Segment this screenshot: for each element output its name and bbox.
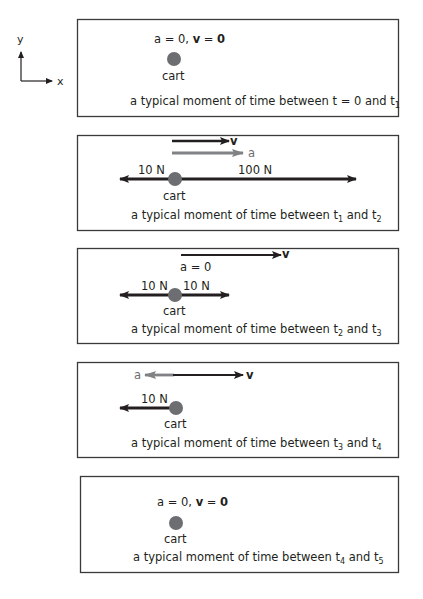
cart-label: cart [163,304,186,318]
force-left-label: 10 N [138,163,165,177]
cart-label: cart [164,532,187,546]
panel-caption: a typical moment of time between t3 and … [131,436,382,452]
coordinate-axes: y x [17,33,64,88]
velocity-label: v [246,368,254,382]
cart-label: cart [162,69,185,83]
panel-caption: a typical moment of time between t2 and … [131,322,382,338]
cart-icon [168,288,182,302]
cart-icon [168,172,182,186]
panel-3: v a = 0 10 N 10 N cart a typical moment … [78,247,399,344]
panel-5: a = 0, v = 0 cart a typical moment of ti… [81,477,399,573]
cart-icon [169,516,183,530]
force-right-label: 100 N [238,163,272,177]
state-label: a = 0, v = 0 [157,495,228,509]
motion-diagram: y x a = 0, v = 0 cart a typical moment o… [0,0,423,599]
panel-caption: a typical moment of time between t1 and … [131,208,382,224]
panel-1: a = 0, v = 0 cart a typical moment of ti… [78,20,400,117]
force-left-label: 10 N [141,392,168,406]
cart-label: cart [163,189,186,203]
panel-2: v a 10 N 100 N cart a typical moment of … [78,134,399,231]
acceleration-label: a [134,368,141,382]
x-axis-label: x [57,75,64,88]
cart-label: cart [164,417,187,431]
y-axis-label: y [17,33,24,46]
panel-caption: a typical moment of time between t4 and … [133,550,384,566]
state-label: a = 0, v = 0 [154,32,225,46]
velocity-label: v [230,134,238,148]
panel-4: a v 10 N cart a typical moment of time b… [78,363,399,458]
acceleration-label: a [248,146,255,160]
panel-caption: a typical moment of time between t = 0 a… [130,94,400,110]
cart-icon [167,52,181,66]
force-left-label: 10 N [141,279,168,293]
acceleration-zero-label: a = 0 [180,260,211,274]
cart-icon [169,401,183,415]
velocity-label: v [282,247,290,261]
force-right-label: 10 N [183,279,210,293]
